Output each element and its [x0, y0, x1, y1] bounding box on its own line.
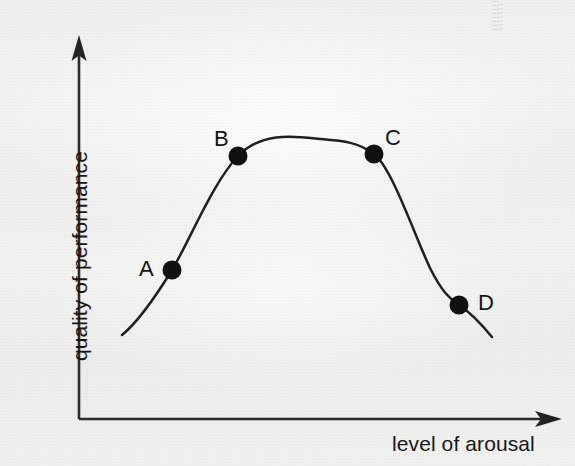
- data-point-b[interactable]: [229, 147, 248, 166]
- y-axis-title: quality of performance: [68, 151, 92, 361]
- data-point-label-b: B: [214, 126, 229, 152]
- data-point-label-d: D: [478, 290, 494, 316]
- data-point-label-a: A: [139, 256, 154, 282]
- data-point-c[interactable]: [365, 145, 384, 164]
- data-point-d[interactable]: [450, 296, 469, 315]
- data-point-label-c: C: [385, 125, 401, 151]
- x-axis-title: level of arousal: [392, 432, 535, 456]
- data-point-a[interactable]: [163, 261, 182, 280]
- performance-curve: [122, 137, 492, 337]
- arousal-performance-figure: A B C D quality of performance level of …: [0, 0, 575, 466]
